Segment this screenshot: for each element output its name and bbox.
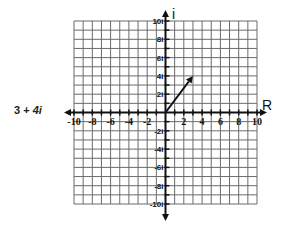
x-tick-label: 8 (236, 116, 241, 127)
x-tick-label: 4 (200, 116, 205, 127)
real-axis-label: R (262, 97, 272, 113)
x-tick-label: 10 (252, 116, 262, 127)
complex-plane-figure: 3 + 4i -10-8-6-4-2246810 10i8i6i4i2i-2i-… (0, 0, 284, 231)
complex-plane: -10-8-6-4-2246810 10i8i6i4i2i-2i-4i-6i-8… (0, 0, 284, 231)
x-tick-label: -6 (106, 116, 114, 127)
x-tick-label: 6 (218, 116, 223, 127)
imaginary-axis-label: i (172, 6, 175, 22)
y-tick-label: 10i (152, 17, 163, 26)
y-tick-label: -2i (154, 127, 163, 136)
y-tick-label: 6i (157, 54, 164, 63)
y-tick-label: -6i (154, 163, 163, 172)
y-tick-label: 2i (157, 90, 164, 99)
x-tick-label: 2 (181, 116, 186, 127)
vector-shaft (166, 82, 189, 113)
y-tick-label: -4i (154, 145, 163, 154)
y-tick-label: 4i (157, 72, 164, 81)
y-tick-label: -8i (154, 182, 163, 191)
arrow-up-icon (162, 10, 169, 17)
x-tick-label: -8 (88, 116, 96, 127)
y-tick-label: 8i (157, 35, 164, 44)
y-tick-label: -10i (150, 200, 164, 209)
x-tick-label: -4 (125, 116, 133, 127)
x-tick-label: -10 (67, 116, 80, 127)
arrow-down-icon (162, 214, 169, 221)
x-tick-label: -2 (143, 116, 151, 127)
